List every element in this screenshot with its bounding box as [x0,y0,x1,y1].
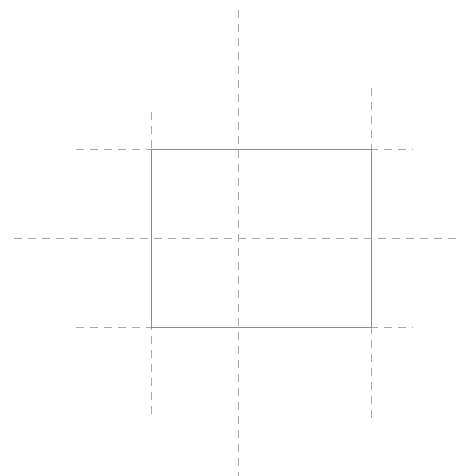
drawing-canvas [0,0,468,476]
drawing-surface [0,0,468,476]
guide-lines-layer [14,10,456,476]
